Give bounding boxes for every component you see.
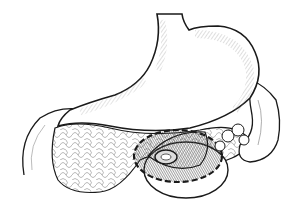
medical-illustration xyxy=(0,0,301,219)
stomach xyxy=(58,14,259,131)
stomach-drawing xyxy=(0,0,301,219)
